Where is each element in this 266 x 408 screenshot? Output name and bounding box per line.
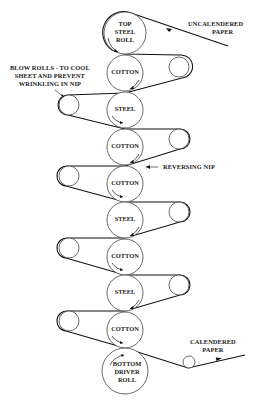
- cotton-roll-5-label: COTTON: [103, 325, 147, 333]
- uncalendered-paper-label: UNCALENDERED PAPER: [188, 20, 243, 36]
- calendered-paper-label: CALENDERED PAPER: [190, 338, 236, 354]
- blow-roll-right-4: [169, 275, 189, 295]
- uncalendered-arrow-head: [166, 28, 172, 32]
- cotton-roll-3-label: COTTON: [103, 179, 147, 187]
- blow-roll-right-1: [169, 57, 189, 77]
- blow-rolls-label: BLOW ROLLS - TO COOL SHEET AND PREVENT W…: [10, 64, 90, 88]
- steel-roll-1-label: STEEL: [103, 105, 147, 113]
- cotton-roll-4-label: COTTON: [103, 252, 147, 260]
- cotton-roll-1-label: COTTON: [103, 68, 147, 76]
- reversing-nip-text: REVERSING NIP: [163, 163, 215, 170]
- roll-label-line: DRIVER: [105, 368, 149, 376]
- uncalendered-line-2: PAPER: [188, 28, 243, 36]
- exit-roll: [183, 356, 195, 368]
- blow-roll-left-2: [59, 166, 79, 186]
- top-steel-roll-label: TOP STEEL ROLL: [103, 20, 147, 44]
- calendered-line-2: PAPER: [190, 346, 236, 354]
- blow-roll-right-3: [169, 202, 189, 222]
- blow-roll-left-1: [59, 95, 79, 115]
- roll-label-line: ROLL: [103, 36, 147, 44]
- blow-rolls-line-3: WRINKLING IN NIP: [10, 80, 90, 88]
- steel-roll-2-label: STEEL: [103, 215, 147, 223]
- blow-roll-left-4: [59, 311, 79, 331]
- steel-roll-3-label: STEEL: [103, 288, 147, 296]
- cotton-roll-2-label: COTTON: [103, 142, 147, 150]
- blow-roll-left-3: [59, 238, 79, 258]
- calendered-line-1: CALENDERED: [190, 338, 236, 346]
- blow-rolls-line-1: BLOW ROLLS - TO COOL: [10, 64, 90, 72]
- uncalendered-line-1: UNCALENDERED: [188, 20, 243, 28]
- roll-label-line: BOTTOM: [105, 360, 149, 368]
- blow-rolls-line-2: SHEET AND PREVENT: [10, 72, 90, 80]
- roll-label-line: ROLL: [105, 376, 149, 384]
- blow-roll-right-2: [169, 129, 189, 149]
- bottom-driver-roll-label: BOTTOM DRIVER ROLL: [105, 360, 149, 384]
- roll-label-line: STEEL: [103, 28, 147, 36]
- roll-label-line: TOP: [103, 20, 147, 28]
- reversing-nip-label: REVERSING NIP: [163, 163, 215, 171]
